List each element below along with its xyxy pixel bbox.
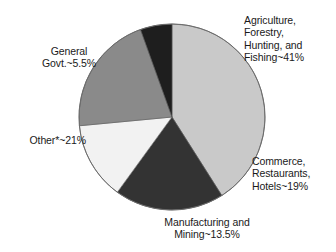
pie-label-manufacturing: Manufacturing and Mining~13.5% — [142, 216, 272, 241]
pie-label-commerce: Commerce, Restaurants, Hotels~19% — [252, 155, 336, 192]
pie-label-other: Other*~21% — [2, 134, 86, 146]
pie-label-agriculture: Agriculture, Forestry, Hunting, and Fish… — [244, 14, 336, 64]
pie-label-general-govt: General Govt.~5.5% — [26, 45, 112, 70]
pie-chart: Agriculture, Forestry, Hunting, and Fish… — [0, 0, 336, 252]
